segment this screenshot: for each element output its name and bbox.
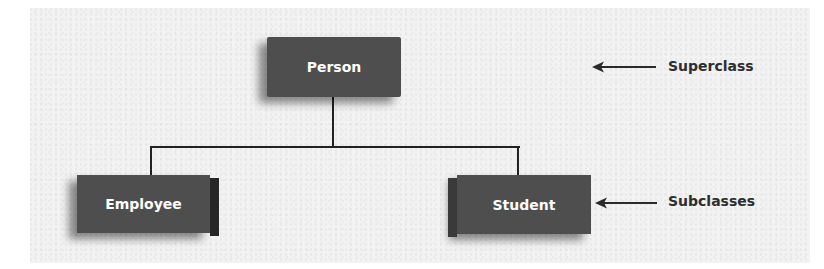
superclass-box-person: Person: [267, 37, 401, 97]
annotation-superclass: Superclass: [668, 58, 754, 74]
box-3d-side: [448, 178, 457, 237]
superclass-label: Person: [307, 59, 362, 75]
annotation-subclasses: Subclasses: [668, 193, 755, 209]
connector-horizontal-bar: [150, 146, 520, 148]
connector-to-employee: [150, 146, 152, 176]
subclass-label-student: Student: [493, 197, 556, 213]
subclass-box-employee: Employee: [77, 175, 210, 233]
connector-to-student: [517, 146, 519, 176]
connector-vertical-from-person: [332, 97, 334, 148]
arrow-left-icon: [590, 60, 658, 74]
subclass-box-student: Student: [457, 175, 591, 234]
subclass-label-employee: Employee: [105, 196, 182, 212]
box-3d-side: [210, 178, 219, 236]
arrow-left-icon: [593, 196, 659, 210]
